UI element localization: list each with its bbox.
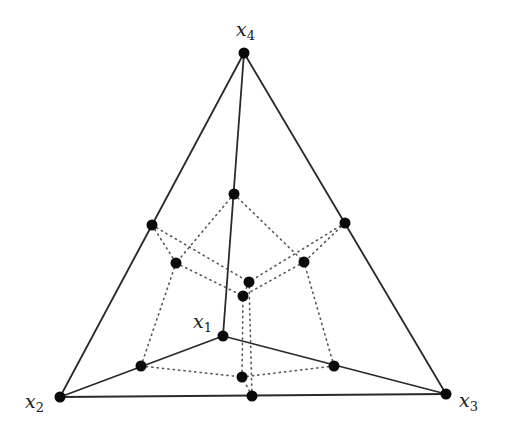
- dotted-edge-f421-c: [176, 263, 243, 296]
- dotted-edge-m21-f123: [141, 366, 242, 377]
- midpoint-node-m23: [247, 391, 258, 402]
- dotted-edge-m42-f421: [152, 225, 176, 263]
- nodes: [55, 48, 452, 403]
- dotted-edge-m23-f423: [249, 282, 252, 396]
- dotted-edge-m13-f123: [242, 366, 334, 377]
- tetrahedron-diagram: [0, 0, 506, 438]
- vertex-node-x3: [441, 389, 452, 400]
- dotted-edge-m43-f413: [304, 223, 345, 262]
- vertex-label-x4: x4: [236, 20, 255, 42]
- solid-edges: [60, 53, 446, 397]
- dotted-edge-m21-f421: [141, 263, 176, 366]
- dotted-edge-m43-f423: [249, 223, 345, 282]
- vertex-node-x2: [55, 392, 66, 403]
- dotted-edge-m13-f413: [304, 262, 334, 366]
- midpoint-node-m42: [147, 220, 158, 231]
- vertex-label-x1: x1: [193, 312, 212, 334]
- midpoint-node-m13: [329, 361, 340, 372]
- centroid-node-f413: [299, 257, 310, 268]
- midpoint-node-m21: [136, 361, 147, 372]
- centroid-node-f421: [171, 258, 182, 269]
- center-node: [238, 291, 249, 302]
- vertex-label-x3: x3: [459, 391, 478, 413]
- midpoint-node-m41: [229, 189, 240, 200]
- centroid-node-f423: [244, 277, 255, 288]
- vertex-label-x2: x2: [25, 392, 44, 414]
- vertex-node-x4: [239, 48, 250, 59]
- dotted-edge-m41-f421: [176, 194, 234, 263]
- dotted-edge-m42-f423: [152, 225, 249, 282]
- vertex-node-x1: [218, 331, 229, 342]
- centroid-node-f123: [237, 372, 248, 383]
- dotted-edge-f123-c: [242, 296, 243, 377]
- midpoint-node-m43: [340, 218, 351, 229]
- dotted-edge-m41-f413: [234, 194, 304, 262]
